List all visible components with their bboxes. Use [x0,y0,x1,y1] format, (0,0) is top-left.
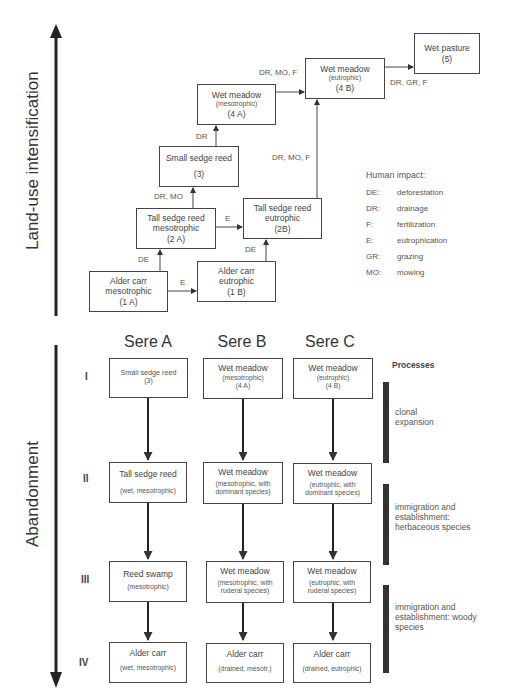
box-sub: (wet, mesotrophic) [120,487,176,495]
process-line: herbaceous species [395,523,471,533]
box-title: Alder carr [227,649,264,660]
process-clonal-expansion: clonal expansion [395,408,434,428]
box-title: Wet meadow [218,363,267,374]
sere-b-stage-ii-box: Wet meadow (mesotrophic, with dominant s… [203,462,283,504]
sere-c-stage-ii-box: Wet meadow (eutrophic, with dominant spe… [293,463,372,504]
box-sub: ruderal species) [221,587,269,595]
sere-b-header: Sere B [202,333,282,351]
land-use-axis-arrow [50,24,62,316]
process-line: species [395,623,477,633]
box-wet-pasture-5: Wet pasture (5) [414,33,480,74]
box-title: Tall sedge reed [119,469,177,480]
box-title: Wet meadow [320,64,369,75]
legend-code: MO: [366,268,381,277]
transition-label-2a-3: DR, MO [154,192,183,201]
transition-label-1a-2a: DE [138,255,149,264]
box-title: Wet meadow [218,467,267,478]
transition-label-1b-2b: DE [245,245,256,254]
clonal-expansion-bar [383,382,389,463]
herbaceous-immigration-bar [383,484,389,565]
box-sub: (3) [144,377,152,385]
box-title: Reed swamp [123,569,173,580]
legend-code: DR: [366,204,380,213]
box-code: (1 B) [227,287,245,298]
box-sub: (eutrophic, with [309,481,355,489]
box-small-sedge-reed-3: Small sedge reed (3) [159,146,239,187]
abandonment-label: Abandonment [23,447,43,547]
transition-label-1a-1b: E [180,278,185,287]
process-herbaceous-immigration: immigration and establishment: herbaceou… [395,503,471,532]
box-sub: (wet, mesotrophic) [120,664,176,672]
box-title: Wet pasture [424,43,470,54]
box-sub: dominant species) [215,488,270,496]
box-subtitle: mesotrophic [153,223,199,234]
transition-label-2b-4b: DR, MO, F [272,153,310,162]
box-sub: (drained, mesotr.) [218,665,271,673]
box-code: (4 A) [228,109,246,120]
box-sub: (mesotrophic, with [215,480,270,488]
legend-meaning: drainage [397,204,428,213]
sere-a-stage-ii-box: Tall sedge reed (wet, mesotrophic) [109,462,187,503]
sere-a-stage-iv-box: Alder carr (wet, mesotrophic) [109,642,187,683]
legend-code: F: [366,220,373,229]
box-wet-meadow-eutrophic-4b: Wet meadow (eutrophic) (4 B) [305,58,385,99]
box-title: Alder carr [130,648,167,659]
box-title: Wet meadow [308,468,357,479]
legend-code: GR: [366,252,380,261]
box-tall-sedge-reed-eutrophic-2b: Tall sedge reed eutrophic (2B) [243,198,322,239]
sere-arrows [148,397,333,640]
legend-meaning: mowing [397,268,425,277]
legend-code: E: [366,236,374,245]
box-title: Tall sedge reed [147,213,205,224]
box-sub: (eutrophic) [317,374,350,382]
stage-i-label: I [85,371,88,382]
box-code: (1 A) [120,297,138,308]
box-sub: (eutrophic, with [309,579,355,587]
box-sub: (drained, eutrophic) [303,665,362,673]
process-line: expansion [395,418,434,428]
sere-b-stage-i-box: Wet meadow (mesotrophic) (4 A) [203,358,283,399]
abandonment-axis-arrow [50,345,62,688]
stage-iii-label: III [81,574,89,585]
sere-b-stage-iv-box: Alder carr (drained, mesotr.) [206,643,284,683]
box-subtitle: (eutrophic) [329,74,362,82]
box-subtitle: mesotrophic [105,286,151,297]
transition-label-4b-5: DR, GR, F [390,78,427,87]
stage-ii-label: II [83,473,89,484]
legend-meaning: grazing [397,252,423,261]
box-subtitle: (mesotrophic) [216,100,258,108]
box-sub: (mesotrophic) [222,374,264,382]
box-title: Wet meadow [308,363,357,374]
transition-label-2a-2b: E [225,214,230,223]
box-title: Alder carr [218,266,255,277]
woody-immigration-bar [383,585,389,673]
land-use-intensification-label: Land-use intensification [23,80,43,250]
box-code: (4 B) [336,83,354,94]
processes-header: Processes [392,360,435,370]
sere-a-stage-i-box: Small sedge reed (3) [109,358,188,398]
sere-c-header: Sere C [290,333,370,351]
legend-meaning: eutrophication [397,236,447,245]
box-code: (3) [194,169,204,180]
box-tall-sedge-reed-mesotrophic-2a: Tall sedge reed mesotrophic (2 A) [136,208,216,249]
sere-c-stage-i-box: Wet meadow (eutrophic) (4 B) [293,358,373,399]
box-code: (2B) [274,224,290,235]
box-sub: dominant species) [305,489,360,497]
box-sub: (mesotrophic) [127,583,169,591]
sere-a-stage-iii-box: Reed swamp (mesotrophic) [109,561,187,602]
legend-meaning: deforestation [397,188,443,197]
box-title: Tall sedge reed [254,203,312,214]
box-title: Small sedge reed [166,153,232,164]
box-title: Alder carr [110,276,147,287]
sere-a-header: Sere A [108,333,188,351]
box-alder-carr-eutrophic-1b: Alder carr eutrophic (1 B) [197,261,276,302]
box-code: (5) [442,54,452,65]
box-title: Alder carr [314,649,351,660]
sere-c-stage-iii-box: Wet meadow (eutrophic, with ruderal spec… [293,561,371,603]
box-title: Wet meadow [220,566,269,577]
legend-meaning: fertilization [397,220,435,229]
box-sub: (4 A) [236,382,250,390]
box-title: Wet meadow [212,90,261,101]
sere-c-stage-iv-box: Alder carr (drained, eutrophic) [293,643,371,683]
box-sub: (4 B) [326,382,341,390]
